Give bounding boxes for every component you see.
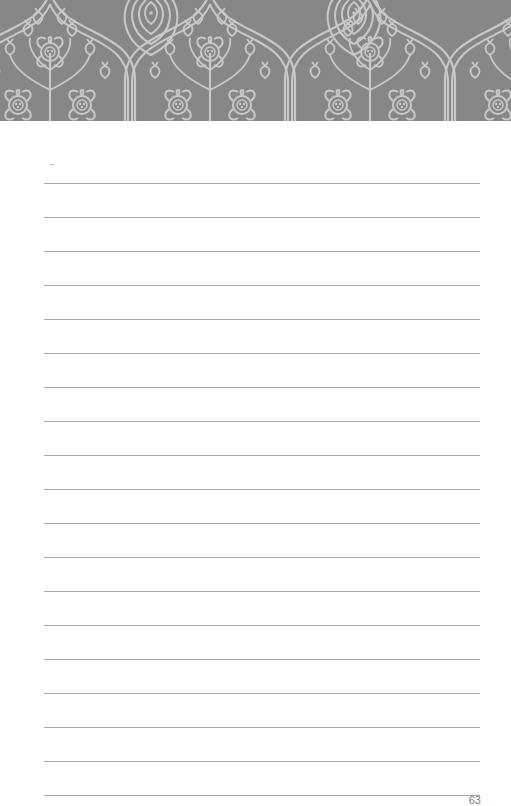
page-number: 63 xyxy=(469,795,481,806)
ruled-line xyxy=(44,557,480,558)
ruled-line xyxy=(44,285,480,286)
ruled-line xyxy=(44,761,480,762)
ruled-line xyxy=(44,217,480,218)
ruled-line xyxy=(44,251,480,252)
ruled-line xyxy=(44,319,480,320)
ruled-line xyxy=(44,795,480,796)
stray-mark xyxy=(50,164,54,165)
ruled-line xyxy=(44,387,480,388)
ruled-line xyxy=(44,659,480,660)
ruled-line xyxy=(44,591,480,592)
ruled-line xyxy=(44,523,480,524)
ruled-line xyxy=(44,489,480,490)
ruled-line xyxy=(44,421,480,422)
ruled-line xyxy=(44,727,480,728)
ruled-line xyxy=(44,693,480,694)
ruled-line xyxy=(44,353,480,354)
ruled-line xyxy=(44,455,480,456)
ruled-line xyxy=(44,625,480,626)
ruled-line xyxy=(44,183,480,184)
